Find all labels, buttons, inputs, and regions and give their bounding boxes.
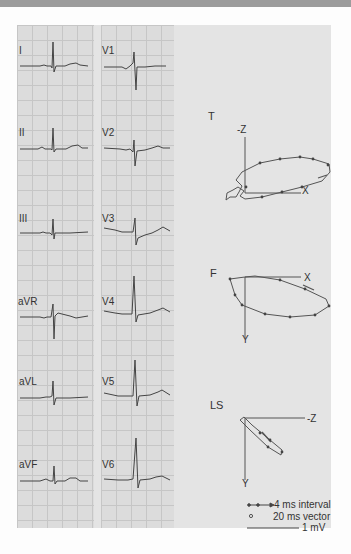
legend-vector: 20 ms vector <box>273 511 330 522</box>
legend-interval: 4 ms interval <box>274 499 331 510</box>
legend-symbols <box>0 0 351 554</box>
legend-scale: 1 mV <box>302 522 325 533</box>
